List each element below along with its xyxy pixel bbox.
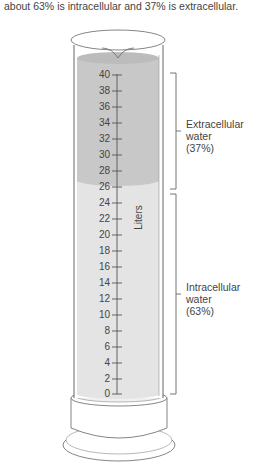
tick-label: 2 <box>88 374 110 384</box>
tick-label: 14 <box>88 278 110 288</box>
tick-label: 26 <box>88 182 110 192</box>
tick-label: 18 <box>88 246 110 256</box>
tick-label: 32 <box>88 134 110 144</box>
tick-label: 12 <box>88 294 110 304</box>
tick-label: 24 <box>88 198 110 208</box>
tick-label: 6 <box>88 342 110 352</box>
tick-label: 28 <box>88 166 110 176</box>
graduated-cylinder <box>0 0 260 474</box>
tick-label: 8 <box>88 326 110 336</box>
tick-label: 0 <box>88 389 110 399</box>
cylinder-lip <box>71 30 165 50</box>
tick-label: 34 <box>88 118 110 128</box>
tick-label: 22 <box>88 214 110 224</box>
extracellular-bracket <box>170 73 176 189</box>
tick-label: 38 <box>88 86 110 96</box>
tick-label: 30 <box>88 150 110 160</box>
extracellular-label: Extracellular water (37%) <box>186 118 244 154</box>
tick-label: 4 <box>88 358 110 368</box>
tick-label: 36 <box>88 102 110 112</box>
tick-label: 20 <box>88 230 110 240</box>
tick-label: 10 <box>88 310 110 320</box>
tick-label: 16 <box>88 262 110 272</box>
tick-label: 40 <box>88 70 110 80</box>
axis-title-liters: Liters <box>133 205 144 229</box>
intracellular-label: Intracellular water (63%) <box>186 281 240 317</box>
intracellular-bracket <box>170 194 176 394</box>
